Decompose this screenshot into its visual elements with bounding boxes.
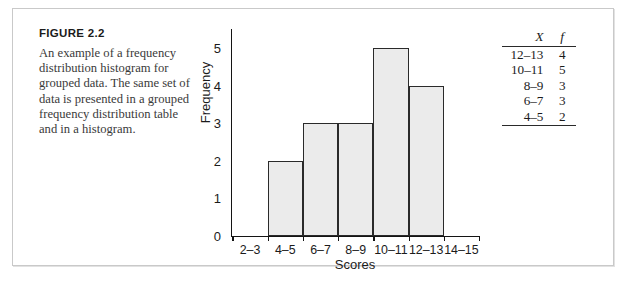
x-tick-label: 8–9 (345, 243, 366, 257)
x-tick-mark (232, 236, 233, 241)
x-tick-mark (303, 236, 304, 241)
table-cell-f: 2 (548, 109, 576, 126)
table-cell-x: 6–7 (502, 94, 548, 110)
figure-number-label: FIGURE 2.2 (39, 27, 199, 39)
x-tick-mark (338, 236, 339, 241)
y-tick-label: 5 (199, 41, 221, 56)
figure-frame: FIGURE 2.2 An example of a frequency dis… (12, 8, 614, 266)
y-axis-line (231, 29, 232, 237)
figure-caption-text: An example of a frequency distribution h… (39, 46, 199, 137)
y-tick-label: 2 (199, 153, 221, 168)
table-cell-x: 10–11 (502, 63, 548, 79)
table-cell-x: 12–13 (502, 47, 548, 63)
frequency-table: X f 12–13410–1158–936–734–52 (502, 29, 576, 126)
x-tick-label: 14–15 (444, 243, 478, 257)
plot-area: 012345 2–34–56–78–910–1112–1314–15 (231, 29, 479, 237)
table-body: 12–13410–1158–936–734–52 (502, 47, 576, 126)
caption-block: FIGURE 2.2 An example of a frequency dis… (39, 27, 199, 137)
table-cell-f: 3 (548, 78, 576, 94)
table-cell-x: 8–9 (502, 78, 548, 94)
x-tick-label: 6–7 (310, 243, 331, 257)
table-row: 8–93 (502, 78, 576, 94)
x-axis-title: Scores (231, 257, 479, 272)
histogram-bar (268, 161, 303, 236)
table-cell-f: 3 (548, 94, 576, 110)
x-tick-mark (268, 236, 269, 241)
figure-container: FIGURE 2.2 An example of a frequency dis… (0, 0, 630, 282)
x-tick-mark (409, 236, 410, 241)
histogram-bar (409, 86, 444, 236)
histogram-bar (338, 123, 373, 235)
x-tick-label: 12–13 (409, 243, 443, 257)
table-cell-x: 4–5 (502, 109, 548, 126)
histogram-chart: Frequency 012345 2–34–56–78–910–1112–131… (183, 23, 483, 263)
table-row: 6–73 (502, 94, 576, 110)
table-header-row: X f (502, 29, 576, 47)
y-tick-label: 1 (199, 191, 221, 206)
table-cell-f: 5 (548, 63, 576, 79)
histogram-bar (373, 48, 408, 235)
table-row: 10–115 (502, 63, 576, 79)
table-cell-f: 4 (548, 47, 576, 63)
table-row: 4–52 (502, 109, 576, 126)
x-tick-label: 10–11 (374, 243, 408, 257)
table-header-x: X (502, 29, 548, 47)
y-tick-label: 3 (199, 116, 221, 131)
table-header-f: f (548, 29, 576, 47)
x-tick-label: 2–3 (240, 243, 261, 257)
x-tick-mark (373, 236, 374, 241)
y-tick-label: 0 (199, 228, 221, 243)
x-tick-label: 4–5 (275, 243, 296, 257)
table-row: 12–134 (502, 47, 576, 63)
histogram-bar (303, 123, 338, 235)
x-tick-mark (479, 236, 480, 241)
x-tick-mark (444, 236, 445, 241)
y-tick-label: 4 (199, 78, 221, 93)
